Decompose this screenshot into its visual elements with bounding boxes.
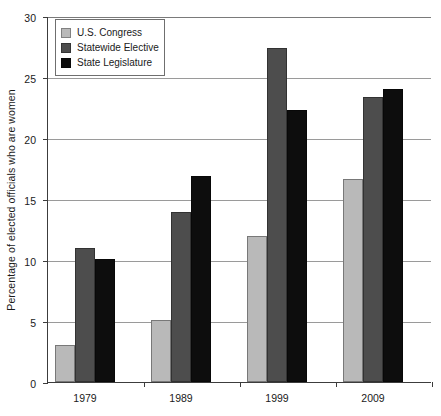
bar (363, 97, 383, 382)
x-axis-tick (432, 382, 433, 387)
y-axis-tick: 0 (43, 383, 48, 384)
x-axis-tick-label: 2009 (361, 392, 384, 404)
bar (95, 259, 115, 382)
y-axis-tick-label: 15 (24, 195, 36, 207)
gridline (48, 78, 431, 79)
y-axis-tick: 15 (43, 200, 48, 201)
bar (151, 320, 171, 382)
y-axis-tick-label: 5 (30, 317, 36, 329)
bar (55, 345, 75, 382)
legend-swatch-icon (61, 28, 71, 38)
legend-item-label: U.S. Congress (77, 28, 142, 38)
y-axis-tick-label: 10 (24, 256, 36, 268)
x-axis-tick-label: 1979 (73, 392, 96, 404)
y-axis-title: Percentage of elected officials who are … (2, 0, 20, 400)
bar (343, 179, 363, 382)
legend-swatch-icon (61, 58, 71, 68)
y-axis-tick-label: 25 (24, 73, 36, 85)
y-axis-tick-label: 30 (24, 12, 36, 24)
y-axis-tick: 20 (43, 139, 48, 140)
x-axis-tick (240, 382, 241, 387)
bar (75, 248, 95, 382)
bar (247, 236, 267, 382)
legend-item: U.S. Congress (61, 25, 158, 40)
gridline (48, 17, 431, 18)
y-axis-tick: 25 (43, 78, 48, 79)
bar-chart: Percentage of elected officials who are … (0, 0, 441, 416)
legend-item-label: Statewide Elective (77, 43, 159, 53)
bar (171, 212, 191, 382)
x-axis-tick (144, 382, 145, 387)
x-axis-tick-label: 1989 (169, 392, 192, 404)
bar (287, 110, 307, 382)
x-axis-tick (336, 382, 337, 387)
y-axis-tick: 30 (43, 17, 48, 18)
bar (383, 89, 403, 382)
y-axis-tick-label: 0 (30, 378, 36, 390)
y-axis-title-text: Percentage of elected officials who are … (5, 89, 17, 310)
bar (267, 48, 287, 382)
legend-item: State Legislature (61, 55, 158, 70)
legend-item: Statewide Elective (61, 40, 158, 55)
legend-item-label: State Legislature (77, 58, 152, 68)
bar (191, 176, 211, 382)
chart-legend: U.S. CongressStatewide ElectiveState Leg… (55, 19, 165, 76)
y-axis-tick-label: 20 (24, 134, 36, 146)
x-axis-tick-label: 1999 (265, 392, 288, 404)
legend-swatch-icon (61, 43, 71, 53)
y-axis-tick: 10 (43, 261, 48, 262)
y-axis-tick: 5 (43, 322, 48, 323)
